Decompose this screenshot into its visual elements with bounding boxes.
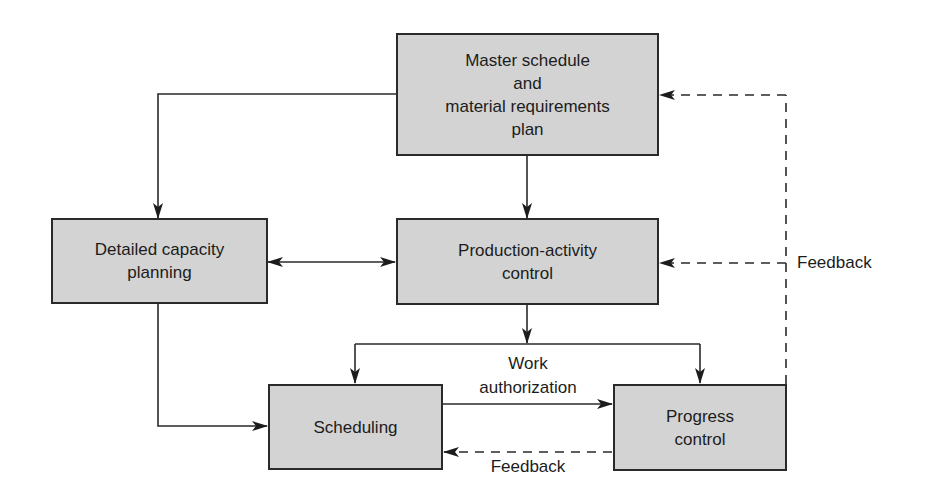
node-label-line: Production-activity: [458, 239, 597, 262]
node-label-line: Scheduling: [313, 416, 397, 439]
node-label-line: Master schedule: [465, 49, 590, 72]
node-label-line: and: [513, 72, 541, 95]
edge-label-feedback-scheduling: Feedback: [491, 456, 566, 478]
node-label-line: Detailed capacity: [95, 238, 224, 261]
edge-capacity-to-scheduling: [158, 304, 267, 426]
node-label-line: planning: [127, 261, 191, 284]
node-label-line: control: [674, 428, 725, 451]
diagram-canvas: Master schedule and material requirement…: [0, 0, 931, 500]
edge-master-to-capacity: [158, 94, 396, 218]
edge-label-feedback-top: Feedback: [797, 252, 872, 274]
node-detailed-capacity-planning: Detailed capacity planning: [51, 218, 268, 304]
edge-label-line: authorization: [479, 376, 576, 400]
node-label-line: plan: [511, 118, 543, 141]
node-label-line: control: [502, 262, 553, 285]
edge-label-work-authorization: Work authorization: [479, 352, 576, 400]
node-label-line: material requirements: [445, 95, 609, 118]
node-progress-control: Progress control: [613, 384, 787, 471]
node-label-line: Progress: [666, 405, 734, 428]
node-production-activity-control: Production-activity control: [396, 218, 659, 305]
node-master-schedule: Master schedule and material requirement…: [396, 33, 659, 156]
edge-label-line: Work: [479, 352, 576, 376]
node-scheduling: Scheduling: [268, 384, 443, 470]
